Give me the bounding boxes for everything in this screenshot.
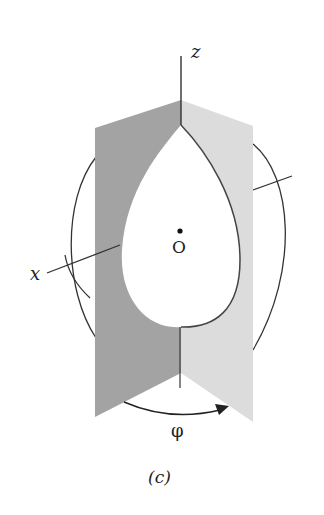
z-axis-label: z	[190, 41, 201, 62]
figure-caption: (c)	[148, 467, 171, 487]
spherical-coordinate-diagram: z x O φ (c)	[0, 0, 324, 515]
origin-label: O	[172, 237, 186, 257]
origin-dot	[177, 228, 182, 233]
phi-arc	[124, 402, 220, 415]
y-axis-stub	[253, 176, 292, 190]
phi-arrowhead-icon	[215, 404, 229, 415]
x-axis-label: x	[30, 263, 40, 284]
phi-label: φ	[171, 420, 184, 441]
